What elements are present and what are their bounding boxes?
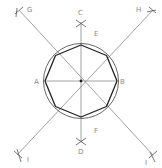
label-d: D bbox=[78, 148, 83, 156]
label-b: B bbox=[120, 78, 125, 86]
center-point bbox=[80, 80, 83, 83]
label-j: I bbox=[145, 159, 147, 167]
arc-mark-j bbox=[149, 151, 157, 162]
label-a: A bbox=[34, 78, 39, 86]
label-h: H bbox=[136, 6, 141, 14]
octagon-construction-diagram: A B C D E F G H I I bbox=[0, 0, 162, 168]
label-e: E bbox=[94, 30, 98, 38]
label-i: I bbox=[27, 156, 29, 164]
arc-mark-g bbox=[15, 7, 23, 17]
label-g: G bbox=[27, 6, 32, 14]
label-c: C bbox=[78, 9, 83, 17]
label-f: F bbox=[94, 127, 98, 135]
